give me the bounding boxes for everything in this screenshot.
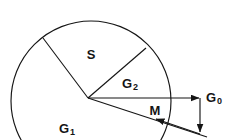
sector-label-g2-base: G (122, 76, 132, 91)
sector-label-g1: G 1 (59, 121, 75, 137)
vector-label-g0-subscript: 0 (217, 96, 222, 106)
sector-label-g1-base: G (59, 121, 69, 136)
outer-circle (11, 21, 171, 140)
sector-diagram-svg: S G 2 G 1 G 0 M (0, 0, 226, 140)
sector-label-g1-subscript: 1 (70, 127, 75, 137)
sector-label-s: S (87, 47, 96, 62)
vector-label-m: M (150, 103, 161, 118)
sector-label-g2: G 2 (122, 76, 138, 92)
radius-s-g1-boundary (43, 38, 88, 98)
sector-label-g2-subscript: 2 (133, 82, 138, 92)
vector-label-g0: G 0 (206, 90, 222, 106)
vector-m-line (88, 98, 207, 137)
vector-label-g0-base: G (206, 90, 216, 105)
figure-canvas: S G 2 G 1 G 0 M (0, 0, 226, 140)
vector-m-arrow (156, 119, 200, 134)
